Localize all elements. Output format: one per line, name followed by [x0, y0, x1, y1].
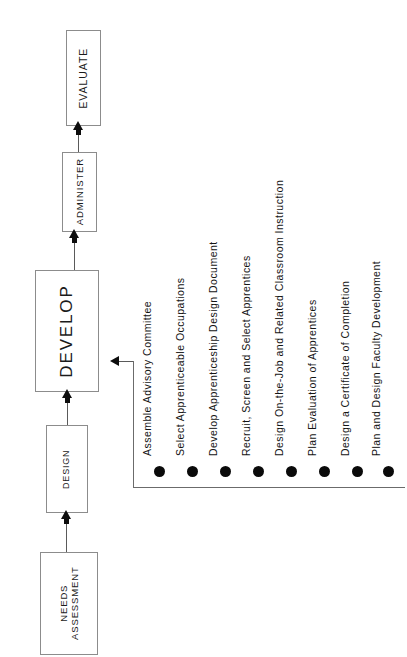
task-bullet-icon [286, 466, 297, 477]
arrow-head-design-develop-icon [62, 389, 72, 398]
flow-box-needs-assessment: NEEDS ASSESSMENT [40, 552, 98, 655]
flow-box-administer-label: ADMINISTER [74, 158, 85, 225]
task-bullet-icon [352, 466, 363, 477]
task-bullet-icon [187, 466, 198, 477]
task-bullet-icon [154, 466, 165, 477]
flow-box-evaluate-label: EVALUATE [77, 48, 89, 109]
task-item-5-label: Design On-the-Job and Related Classroom … [273, 180, 285, 456]
needs-assessment-line-2: ASSESSMENT [69, 567, 80, 640]
task-item-3: Develop Apprenticeship Design Document [208, 0, 242, 500]
task-bracket-left [133, 361, 134, 488]
needs-assessment-line-1: NEEDS [58, 585, 69, 622]
flow-box-design: DESIGN [46, 425, 88, 513]
task-item-2-label: Select Apprenticeable Occupations [174, 278, 186, 456]
arrow-head-needs-design-icon [61, 510, 71, 519]
task-item-3-label: Develop Apprenticeship Design Document [207, 241, 219, 456]
task-item-2: Select Apprenticeable Occupations [175, 0, 209, 500]
task-item-7: Design a Certificate of Completion [340, 0, 374, 500]
flow-box-needs-assessment-label: NEEDS ASSESSMENT [58, 567, 80, 640]
task-item-8: Plan and Design Faculty Development [371, 0, 405, 500]
task-bullet-icon [319, 466, 330, 477]
task-bullet-icon [220, 466, 231, 477]
arrow-head-tasks-develop-icon [110, 356, 119, 366]
task-item-1: Assemble Advisory Committee [142, 0, 176, 500]
flow-box-evaluate: EVALUATE [66, 30, 101, 126]
arrow-head-develop-administer-icon [69, 229, 79, 238]
task-item-6: Plan Evaluation of Apprentices [307, 0, 341, 500]
task-item-4-label: Recruit, Screen and Select Apprentices [240, 255, 252, 456]
task-item-6-label: Plan Evaluation of Apprentices [306, 299, 318, 456]
task-bullet-icon [253, 466, 264, 477]
flow-box-administer: ADMINISTER [62, 152, 97, 232]
diagram-canvas: EVALUATE ADMINISTER DEVELOP DESIGN NEEDS… [0, 0, 407, 657]
flow-box-develop: DEVELOP [35, 270, 99, 392]
task-item-7-label: Design a Certificate of Completion [339, 281, 351, 456]
flow-box-develop-label: DEVELOP [57, 284, 77, 377]
task-item-5: Design On-the-Job and Related Classroom … [274, 0, 308, 500]
arrow-head-administer-evaluate-icon [73, 121, 83, 130]
flow-box-design-label: DESIGN [62, 449, 73, 488]
task-item-8-label: Plan and Design Faculty Development [370, 261, 382, 456]
task-item-1-label: Assemble Advisory Committee [141, 301, 153, 456]
task-item-4: Recruit, Screen and Select Apprentices [241, 0, 275, 500]
connector-tasks-develop [118, 361, 134, 362]
task-bullet-icon [383, 466, 394, 477]
